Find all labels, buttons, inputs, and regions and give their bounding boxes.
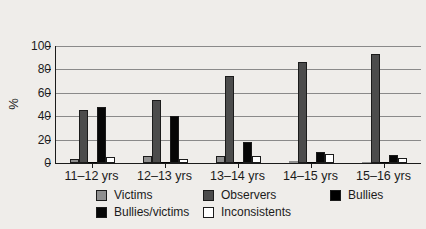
bar-bullies-victims-11-12-yrs [97,107,106,163]
x-tick-mark-15-16-yrs [384,163,385,168]
gridline-20 [56,140,421,141]
legend-item-bullies-victims: Bullies/victims [96,205,203,219]
gridline-60 [56,93,421,94]
legend-swatch-observers [203,190,214,201]
legend-item-observers: Observers [203,188,330,202]
legend: VictimsObserversBulliesBullies/victimsIn… [96,188,420,219]
y-tick-label-0: 0 [7,156,51,170]
legend-label-victims: Victims [114,188,152,202]
bar-victims-11-12-yrs [70,159,79,163]
bar-victims-15-16-yrs [362,162,371,163]
bar-inconsistents-11-12-yrs [106,157,115,163]
legend-swatch-bullies-victims [96,207,107,218]
bar-chart-figure: 020406080100 % 11–12 yrs12–13 yrs13–14 y… [0,0,426,229]
y-tick-mark-20 [46,140,51,141]
gridline-100 [56,46,421,47]
legend-label-bullies: Bullies [348,188,383,202]
legend-item-inconsistents: Inconsistents [203,205,330,219]
legend-swatch-inconsistents [203,207,214,218]
y-tick-mark-100 [46,46,51,47]
plot-area [55,46,421,164]
bar-observers-14-15-yrs [298,62,307,163]
x-category-label-11-12-yrs: 11–12 yrs [55,169,128,183]
x-category-label-13-14-yrs: 13–14 yrs [201,169,274,183]
x-axis: 11–12 yrs12–13 yrs13–14 yrs14–15 yrs15–1… [0,169,426,185]
x-category-label-14-15-yrs: 14–15 yrs [274,169,347,183]
bar-observers-11-12-yrs [79,110,88,163]
bar-victims-14-15-yrs [289,161,298,163]
gridline-80 [56,69,421,70]
x-category-label-12-13-yrs: 12–13 yrs [128,169,201,183]
legend-item-victims: Victims [96,188,203,202]
x-tick-mark-13-14-yrs [238,163,239,168]
x-tick-mark-12-13-yrs [165,163,166,168]
x-tick-mark-14-15-yrs [311,163,312,168]
legend-swatch-bullies [330,190,341,201]
y-tick-mark-80 [46,69,51,70]
bar-bullies-victims-15-16-yrs [389,155,398,163]
legend-swatch-victims [96,190,107,201]
x-tick-mark-11-12-yrs [92,163,93,168]
y-tick-label-20: 20 [7,133,51,147]
y-tick-label-80: 80 [7,62,51,76]
legend-label-bullies-victims: Bullies/victims [114,205,189,219]
legend-item-bullies: Bullies [330,188,420,202]
x-category-label-15-16-yrs: 15–16 yrs [347,169,420,183]
legend-label-inconsistents: Inconsistents [221,205,291,219]
y-tick-label-100: 100 [7,39,51,53]
y-tick-mark-60 [46,93,51,94]
y-tick-mark-40 [46,116,51,117]
bar-inconsistents-15-16-yrs [398,158,407,163]
gridline-40 [56,116,421,117]
y-axis-title: % [6,92,22,116]
bar-bullies-victims-12-13-yrs [170,116,179,163]
bar-inconsistents-12-13-yrs [179,159,188,163]
y-tick-mark-0 [46,163,51,164]
bar-bullies-victims-13-14-yrs [243,142,252,163]
bar-observers-15-16-yrs [371,54,380,163]
bar-observers-13-14-yrs [225,76,234,163]
bar-victims-13-14-yrs [216,156,225,163]
bar-observers-12-13-yrs [152,100,161,163]
bar-victims-12-13-yrs [143,156,152,163]
legend-label-observers: Observers [221,188,276,202]
bar-bullies-victims-14-15-yrs [316,152,325,163]
bar-inconsistents-13-14-yrs [252,156,261,163]
bar-inconsistents-14-15-yrs [325,154,334,163]
